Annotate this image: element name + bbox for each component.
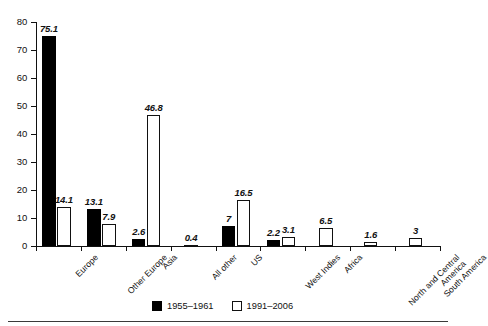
- bar: [237, 200, 251, 246]
- y-axis-tick: [31, 134, 37, 135]
- x-axis-tick: [216, 246, 217, 251]
- bar: [267, 240, 281, 246]
- bar-value-label: 1.6: [364, 230, 377, 240]
- x-axis-tick: [260, 246, 261, 251]
- bar-value-label: 7.9: [102, 212, 115, 222]
- bar-value-label: 3: [413, 226, 418, 236]
- y-axis-tick-label: 0: [0, 241, 27, 251]
- bar-value-label: 6.5: [319, 216, 332, 226]
- legend-swatch-icon: [232, 301, 242, 311]
- y-axis-tick-label: 50: [0, 101, 27, 111]
- bar: [409, 238, 423, 246]
- x-axis-tick: [350, 246, 351, 251]
- chart-legend: 1955–19611991–2006: [152, 299, 293, 313]
- y-axis-tick: [31, 218, 37, 219]
- bar: [364, 242, 378, 246]
- y-axis-tick-label: 30: [0, 157, 27, 167]
- y-axis-tick: [31, 22, 37, 23]
- bar-value-label: 7: [226, 214, 231, 224]
- legend-entry: 1991–2006: [232, 301, 294, 311]
- bar-value-label: 14.1: [55, 195, 73, 205]
- x-axis-category-label: Africa: [342, 253, 364, 275]
- bar-value-label: 13.1: [85, 197, 103, 207]
- bar-value-label: 16.5: [234, 188, 252, 198]
- bar: [87, 209, 101, 246]
- legend-entry: 1955–1961: [152, 301, 214, 311]
- bar-value-label: 2.2: [267, 228, 280, 238]
- x-axis-category-label: West Indies: [304, 253, 342, 291]
- bar: [57, 207, 71, 246]
- y-axis-tick: [31, 78, 37, 79]
- y-axis-tick-label: 20: [0, 185, 27, 195]
- bar: [184, 245, 198, 247]
- y-axis-tick: [31, 162, 37, 163]
- legend-label: 1955–1961: [167, 301, 214, 311]
- bar: [132, 239, 146, 246]
- y-axis-tick: [31, 190, 37, 191]
- bar: [222, 226, 236, 246]
- bar: [319, 228, 333, 246]
- y-axis-tick-label: 60: [0, 73, 27, 83]
- y-axis-tick-label: 40: [0, 129, 27, 139]
- x-axis-tick: [81, 246, 82, 251]
- bar-value-label: 2.6: [132, 227, 145, 237]
- bar-value-label: 0.4: [185, 233, 198, 243]
- y-axis-tick: [31, 106, 37, 107]
- bar: [282, 237, 296, 246]
- figure-bottom-rule: [8, 321, 448, 322]
- x-axis-tick: [171, 246, 172, 251]
- y-axis-tick-label: 10: [0, 213, 27, 223]
- x-axis-tick: [440, 246, 441, 251]
- x-axis-tick: [305, 246, 306, 251]
- x-axis-category-label: Europe: [75, 253, 101, 279]
- bar: [42, 36, 56, 246]
- x-axis-line: [36, 246, 440, 247]
- x-axis-tick: [395, 246, 396, 251]
- bar: [102, 224, 116, 246]
- x-axis-tick: [36, 246, 37, 251]
- x-axis-category-label: US: [250, 253, 265, 268]
- legend-label: 1991–2006: [247, 301, 294, 311]
- x-axis-category-label: All other: [210, 253, 239, 282]
- y-axis-tick-label: 70: [0, 45, 27, 55]
- y-axis-tick: [31, 50, 37, 51]
- bar: [147, 115, 161, 246]
- legend-swatch-icon: [152, 301, 162, 311]
- bar-value-label: 3.1: [282, 225, 295, 235]
- x-axis-tick: [126, 246, 127, 251]
- y-axis-tick-label: 80: [0, 17, 27, 27]
- bar-value-label: 75.1: [40, 24, 58, 34]
- bar-value-label: 46.8: [145, 103, 163, 113]
